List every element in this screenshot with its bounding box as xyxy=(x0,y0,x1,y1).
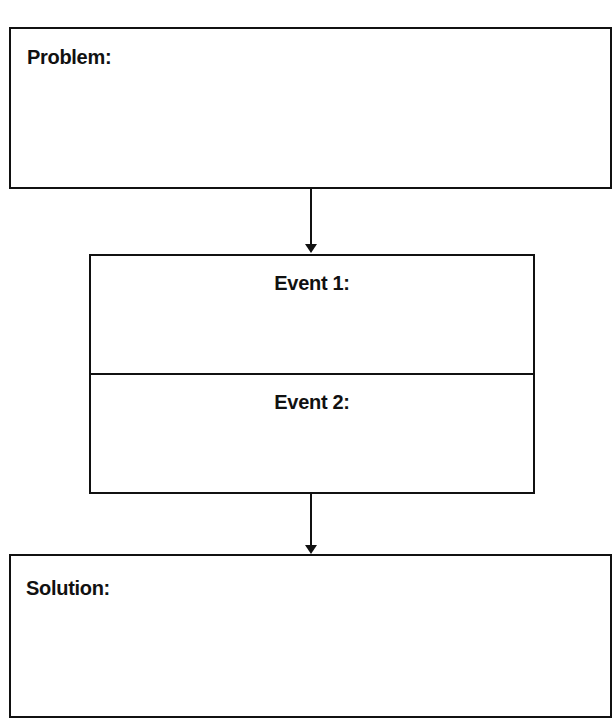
events-box: Event 1: Event 2: xyxy=(89,254,535,494)
arrow-shaft xyxy=(310,494,312,546)
problem-label: Problem: xyxy=(27,46,111,69)
arrow-down-icon xyxy=(305,545,317,554)
arrow-down-icon xyxy=(305,244,317,253)
solution-box[interactable]: Solution: xyxy=(9,554,612,718)
event-2-box[interactable]: Event 2: xyxy=(91,375,533,492)
problem-box[interactable]: Problem: xyxy=(9,27,612,189)
event-1-box[interactable]: Event 1: xyxy=(91,256,533,375)
arrow-shaft xyxy=(310,189,312,246)
solution-label: Solution: xyxy=(26,577,110,600)
event-2-label: Event 2: xyxy=(91,391,533,414)
event-1-label: Event 1: xyxy=(91,272,533,295)
